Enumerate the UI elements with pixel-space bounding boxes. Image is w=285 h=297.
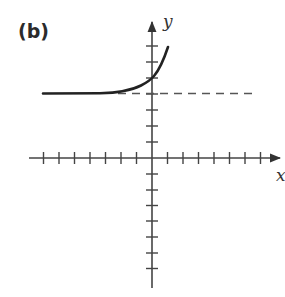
exponential-curve: [43, 47, 168, 94]
x-axis-label: x: [276, 165, 285, 185]
y-axis-label: y: [162, 11, 173, 31]
graph: x y: [0, 0, 285, 297]
